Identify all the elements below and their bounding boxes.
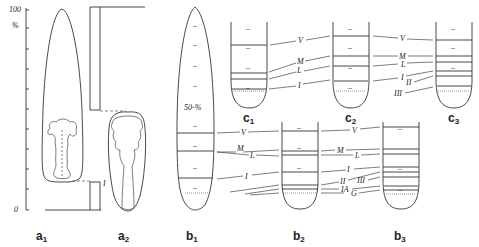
svg-text:V: V: [241, 128, 247, 137]
svg-text:II: II: [405, 78, 412, 87]
panel-label-c3: c3: [448, 111, 460, 126]
svg-text:–: –: [192, 21, 198, 30]
axis-bottom-label: 0: [14, 205, 18, 214]
svg-text:–: –: [245, 83, 251, 92]
panel-b1-egg: – – – – – – – – 50-%: [177, 7, 214, 210]
svg-text:L: L: [249, 151, 255, 160]
svg-text:–: –: [296, 163, 302, 172]
panel-label-b3: b3: [394, 229, 406, 244]
svg-text:III: III: [356, 176, 365, 185]
svg-text:–: –: [347, 24, 353, 33]
panel-b3-cup: – – –: [383, 122, 419, 209]
panel-a2-egg: [108, 112, 145, 211]
svg-text:–: –: [450, 43, 456, 52]
step-boxes: I: [90, 7, 145, 210]
svg-text:L: L: [296, 66, 302, 75]
panel-b2-cup: – – –: [282, 122, 318, 209]
panel-label-b2: b2: [293, 229, 305, 244]
svg-text:–: –: [192, 183, 198, 192]
svg-text:I: I: [297, 81, 301, 90]
a-label-I: I: [102, 179, 106, 188]
svg-text:V: V: [352, 126, 358, 135]
svg-text:–: –: [397, 124, 403, 133]
svg-text:V: V: [400, 34, 406, 43]
svg-text:–: –: [192, 81, 198, 90]
svg-text:I: I: [346, 165, 350, 174]
svg-text:–: –: [245, 63, 251, 72]
axis-top-label: 100: [9, 5, 21, 14]
panel-label-c2: c2: [345, 111, 357, 126]
svg-text:M: M: [336, 146, 345, 155]
svg-text:III: III: [393, 89, 402, 98]
svg-text:–: –: [347, 43, 353, 52]
percentage-axis: 100 % 0: [9, 5, 29, 214]
b1-fifty-percent-label: 50-%: [184, 103, 202, 112]
svg-text:–: –: [245, 43, 251, 52]
svg-text:–: –: [192, 121, 198, 130]
axis-unit-label: %: [12, 21, 19, 30]
svg-text:L: L: [354, 151, 360, 160]
panel-label-b1: b1: [186, 229, 198, 244]
svg-text:M: M: [296, 57, 305, 66]
svg-text:–: –: [347, 63, 353, 72]
svg-text:–: –: [450, 24, 456, 33]
panel-c3-cup: – – –: [436, 22, 472, 108]
svg-text:V: V: [298, 36, 304, 45]
panel-label-a1: a1: [36, 229, 48, 244]
svg-text:–: –: [192, 163, 198, 172]
panel-a1-egg: [42, 9, 90, 210]
svg-text:L: L: [400, 60, 406, 69]
svg-text:I: I: [400, 73, 404, 82]
b-connectors: V M L I V M L I II III IA G: [217, 126, 380, 198]
panel-c1-cup: – – – –: [231, 22, 267, 108]
panel-c2-cup: – – – –: [333, 22, 369, 108]
svg-text:I: I: [244, 172, 248, 181]
panel-label-a2: a2: [118, 229, 130, 244]
svg-text:–: –: [245, 24, 251, 33]
svg-text:G: G: [351, 189, 357, 198]
panel-label-c1: c1: [243, 111, 255, 126]
svg-text:–: –: [192, 61, 198, 70]
svg-text:–: –: [192, 40, 198, 49]
svg-text:–: –: [192, 141, 198, 150]
embryo-diagram: 100 % 0 I a1 a2 – – – – – –: [0, 0, 479, 247]
